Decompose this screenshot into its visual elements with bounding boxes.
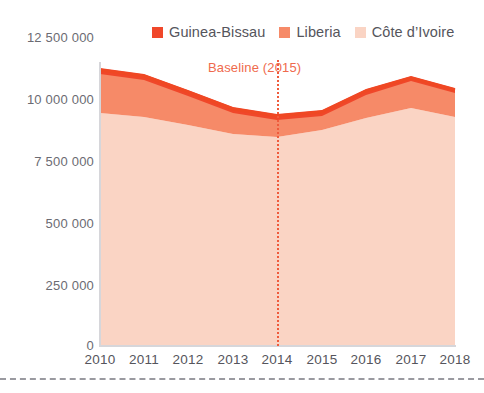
y-axis-line (99, 62, 101, 346)
x-tick-label: 2010 (77, 352, 123, 367)
x-tick-label: 2013 (210, 352, 256, 367)
x-tick-label: 2016 (343, 352, 389, 367)
x-tick-label: 2011 (121, 352, 167, 367)
bottom-divider (0, 378, 484, 380)
chart-root: Guinea-Bissau Liberia Côte d’Ivoire 12 5… (0, 0, 484, 393)
y-tick-label: 500 000 (0, 216, 94, 231)
y-tick-label: 10 000 000 (0, 92, 94, 107)
x-tick-label: 2012 (165, 352, 211, 367)
y-tick-label: 12 500 000 (0, 30, 94, 45)
plot-area: 12 500 000 10 000 000 7 500 000 500 000 … (0, 0, 484, 393)
x-tick-label: 2017 (388, 352, 434, 367)
y-tick-label: 0 (0, 338, 94, 353)
baseline-annotation-label: Baseline (2015) (208, 60, 301, 75)
x-tick-label: 2015 (299, 352, 345, 367)
y-tick-label: 250 000 (0, 278, 94, 293)
x-tick-label: 2018 (432, 352, 478, 367)
baseline-marker-line (277, 60, 279, 346)
stacked-area-series (0, 0, 484, 393)
y-tick-label: 7 500 000 (0, 154, 94, 169)
x-tick-label: 2014 (254, 352, 300, 367)
